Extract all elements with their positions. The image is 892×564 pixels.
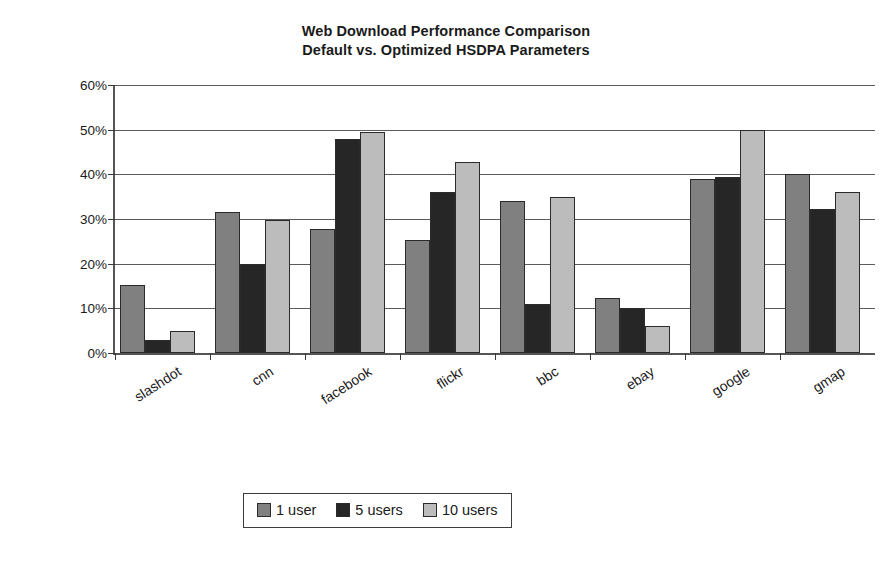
bar[interactable] — [455, 162, 480, 353]
y-axis-tick — [108, 219, 115, 220]
x-axis-tick-label: ebay — [623, 363, 657, 393]
legend-item[interactable]: 5 users — [336, 502, 403, 518]
y-axis-tick-label: 0% — [55, 346, 107, 361]
bar[interactable] — [785, 174, 810, 353]
bar-group — [590, 85, 685, 353]
bar[interactable] — [740, 130, 765, 353]
bar-group-bars — [495, 85, 590, 353]
chart-title-line1: Web Download Performance Comparison — [302, 23, 590, 39]
bar[interactable] — [715, 177, 740, 353]
bar[interactable] — [810, 209, 835, 353]
legend-label: 1 user — [276, 502, 316, 518]
legend-swatch-icon — [257, 503, 271, 517]
bar-group-bars — [590, 85, 685, 353]
bar[interactable] — [170, 331, 195, 353]
bar[interactable] — [620, 308, 645, 353]
bar-group — [115, 85, 210, 353]
bar-group-bars — [210, 85, 305, 353]
bar-groups — [115, 85, 875, 353]
chart-container: Web Download Performance Comparison Defa… — [0, 0, 892, 564]
bar-group-bars — [685, 85, 780, 353]
bar[interactable] — [360, 132, 385, 353]
y-axis-tick-label: 30% — [55, 212, 107, 227]
bar-group — [400, 85, 495, 353]
bar[interactable] — [240, 264, 265, 353]
x-axis-label-cell: cnn — [208, 355, 303, 445]
x-axis-label-cell: slashdot — [113, 355, 208, 445]
y-axis-tick-label: 20% — [55, 256, 107, 271]
x-axis-tick-label: slashdot — [132, 363, 184, 405]
y-axis-tick — [108, 353, 115, 354]
chart-title-line2: Default vs. Optimized HSDPA Parameters — [0, 41, 892, 60]
bar-group — [305, 85, 400, 353]
bar[interactable] — [525, 304, 550, 353]
bar-group-bars — [305, 85, 400, 353]
bar[interactable] — [690, 179, 715, 353]
y-axis-tick — [108, 264, 115, 265]
x-axis-label-cell: facebook — [303, 355, 398, 445]
bar-group-bars — [780, 85, 875, 353]
x-axis-tick-label: cnn — [248, 363, 276, 389]
plot-area — [113, 85, 875, 355]
bar-group — [685, 85, 780, 353]
x-axis-label-cell: ebay — [588, 355, 683, 445]
y-axis-tick-label: 40% — [55, 167, 107, 182]
x-axis-tick-label: facebook — [318, 363, 374, 407]
legend-item[interactable]: 1 user — [257, 502, 316, 518]
bar-group-bars — [115, 85, 210, 353]
y-axis-tick — [108, 130, 115, 131]
legend-swatch-icon — [336, 503, 350, 517]
bar[interactable] — [550, 197, 575, 353]
x-axis-label-cell: gmap — [778, 355, 873, 445]
x-axis-tick-label: gmap — [809, 363, 847, 395]
y-axis-tick-label: 10% — [55, 301, 107, 316]
legend-label: 5 users — [355, 502, 403, 518]
bar[interactable] — [335, 139, 360, 353]
x-axis-tick-label: flickr — [434, 363, 467, 392]
bar[interactable] — [310, 229, 335, 353]
bar-group — [495, 85, 590, 353]
y-axis-tick-label: 50% — [55, 122, 107, 137]
x-axis-tick-label: bbc — [533, 363, 561, 389]
x-axis-tick-label: google — [709, 363, 753, 399]
y-axis-tick — [108, 85, 115, 86]
bar[interactable] — [500, 201, 525, 353]
x-axis-label-cell: google — [683, 355, 778, 445]
bar[interactable] — [145, 340, 170, 353]
bar-group — [210, 85, 305, 353]
bar[interactable] — [405, 240, 430, 353]
bar[interactable] — [835, 192, 860, 353]
bar[interactable] — [595, 298, 620, 353]
legend-label: 10 users — [442, 502, 498, 518]
legend-swatch-icon — [423, 503, 437, 517]
bar[interactable] — [430, 192, 455, 353]
x-axis-label-cell: flickr — [398, 355, 493, 445]
bar[interactable] — [645, 326, 670, 353]
y-axis-tick — [108, 308, 115, 309]
bar[interactable] — [215, 212, 240, 353]
y-axis-tick — [108, 174, 115, 175]
bar[interactable] — [120, 285, 145, 353]
y-axis-tick-label: 60% — [55, 78, 107, 93]
x-axis-label-cell: bbc — [493, 355, 588, 445]
x-axis-tick-labels: slashdotcnnfacebookflickrbbcebaygooglegm… — [113, 355, 873, 445]
bar[interactable] — [265, 220, 290, 353]
chart-title: Web Download Performance Comparison Defa… — [0, 22, 892, 60]
bar-group — [780, 85, 875, 353]
legend-item[interactable]: 10 users — [423, 502, 498, 518]
chart-legend: 1 user5 users10 users — [243, 493, 512, 528]
bar-group-bars — [400, 85, 495, 353]
